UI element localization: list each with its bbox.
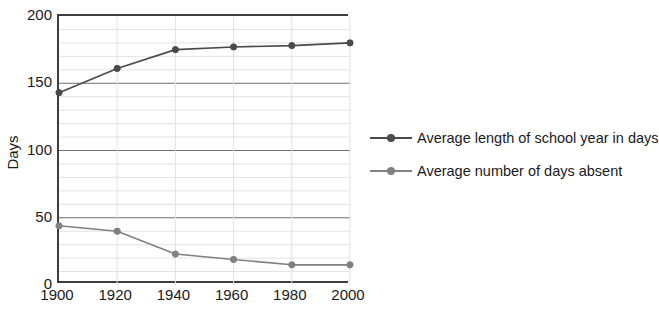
data-point [114, 65, 120, 71]
series-line-2 [59, 226, 350, 265]
x-tick-label: 1960 [202, 286, 262, 303]
y-tick-label: 50 [2, 209, 52, 224]
data-series-layer [59, 16, 350, 285]
legend-label: Average length of school year in days [417, 130, 659, 147]
data-point [172, 47, 178, 53]
data-point [289, 42, 295, 48]
x-tick-label: 1920 [85, 286, 145, 303]
x-tick-label: 1900 [27, 286, 87, 303]
legend-marker-dot [387, 167, 395, 175]
y-tick-label: 150 [2, 74, 52, 89]
data-point [172, 251, 178, 257]
data-point [231, 256, 237, 262]
data-point [56, 90, 62, 96]
data-point [56, 223, 62, 229]
legend-item[interactable]: Average number of days absent [370, 159, 644, 183]
data-point [347, 262, 353, 268]
data-point [114, 228, 120, 234]
chart-legend: Average length of school year in daysAve… [370, 126, 644, 192]
legend-swatch-icon [370, 165, 412, 177]
legend-swatch-icon [370, 132, 412, 144]
x-tick-label: 1940 [143, 286, 203, 303]
x-tick-label: 1980 [260, 286, 320, 303]
data-point [231, 44, 237, 50]
legend-item[interactable]: Average length of school year in days [370, 126, 644, 150]
y-tick-label: 200 [2, 7, 52, 22]
series-line-1 [59, 43, 350, 93]
legend-marker-dot [387, 134, 395, 142]
plot-area [57, 14, 348, 283]
x-tick-label: 2000 [318, 286, 378, 303]
legend-label: Average number of days absent [417, 163, 622, 180]
data-point [289, 262, 295, 268]
y-axis-title: Days [4, 123, 21, 183]
data-point [347, 40, 353, 46]
